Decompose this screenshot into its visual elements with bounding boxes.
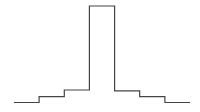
step-chart (0, 0, 200, 112)
chart-marks (14, 6, 190, 103)
series-line-profile (14, 6, 190, 103)
